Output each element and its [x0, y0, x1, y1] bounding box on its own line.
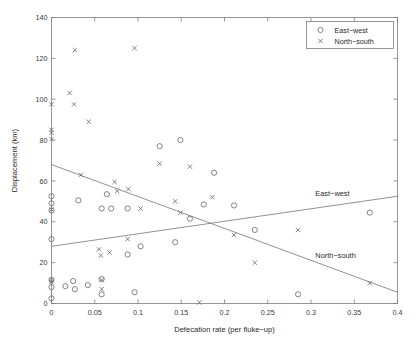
data-point-circle: [138, 244, 143, 249]
data-point-cross: [210, 195, 214, 199]
plot-frame: [52, 18, 398, 304]
data-point-circle: [173, 240, 178, 245]
fit-line-northsouth: [52, 165, 398, 293]
data-point-circle: [231, 203, 236, 208]
x-tick-label: 0.1: [133, 308, 143, 317]
data-point-circle: [99, 292, 104, 297]
x-tick-label: 0.35: [347, 308, 361, 317]
data-point-circle: [99, 206, 104, 211]
tick-labels-group: 00.050.10.150.20.250.30.350.402040608010…: [36, 13, 403, 316]
axis-titles-group: Defecation rate (per fluke−up)Displaceme…: [10, 128, 275, 333]
data-point-circle: [212, 170, 217, 175]
data-point-cross: [197, 300, 201, 304]
x-tick-label: 0.15: [174, 308, 188, 317]
y-axis-title: Displacement (km): [10, 128, 19, 192]
legend-label: North−south: [335, 37, 374, 46]
series-eastwest: [49, 137, 373, 301]
x-tick-label: 0.2: [220, 308, 230, 317]
data-point-circle: [125, 252, 130, 257]
data-point-cross: [99, 253, 103, 257]
data-point-cross: [86, 119, 90, 123]
series-northsouth: [49, 46, 372, 305]
y-tick-label: 100: [36, 95, 48, 104]
data-point-circle: [71, 278, 76, 283]
y-tick-label: 40: [40, 217, 48, 226]
y-tick-label: 60: [40, 177, 48, 186]
data-point-cross: [67, 91, 71, 95]
data-point-cross: [188, 164, 192, 168]
y-tick-label: 20: [40, 258, 48, 267]
x-axis-title: Defecation rate (per fluke−up): [174, 325, 275, 334]
y-tick-label: 0: [44, 299, 48, 308]
data-point-cross: [132, 46, 136, 50]
data-point-cross: [296, 228, 300, 232]
data-point-cross: [232, 233, 236, 237]
axes-group: [52, 18, 398, 304]
data-point-cross: [99, 287, 103, 291]
data-point-circle: [85, 283, 90, 288]
annotation-northsouth: North−south: [315, 251, 355, 260]
data-point-circle: [109, 206, 114, 211]
data-point-circle: [295, 292, 300, 297]
data-point-cross: [97, 247, 101, 251]
data-point-cross: [107, 250, 111, 254]
data-point-circle: [252, 227, 257, 232]
x-tick-label: 0.05: [88, 308, 102, 317]
data-point-circle: [367, 210, 372, 215]
y-tick-label: 80: [40, 136, 48, 145]
x-tick-label: 0.3: [306, 308, 316, 317]
data-point-cross: [368, 281, 372, 285]
data-point-cross: [173, 199, 177, 203]
chart-figure: 00.050.10.150.20.250.30.350.402040608010…: [0, 0, 416, 342]
legend-label: East−west: [335, 26, 368, 35]
fit-line-eastwest: [52, 196, 398, 246]
data-point-circle: [63, 284, 68, 289]
x-tick-label: 0.4: [393, 308, 403, 317]
data-point-circle: [201, 202, 206, 207]
annotation-eastwest: East−west: [315, 189, 349, 198]
scatter-plot: 00.050.10.150.20.250.30.350.402040608010…: [0, 0, 416, 342]
data-point-circle: [132, 290, 137, 295]
data-point-circle: [104, 192, 109, 197]
data-point-circle: [99, 276, 104, 281]
data-point-cross: [72, 102, 76, 106]
data-point-cross: [157, 161, 161, 165]
x-tick-label: 0: [50, 308, 54, 317]
data-point-cross: [125, 237, 129, 241]
legend-group: East−westNorth−south: [307, 22, 394, 49]
data-points-group: [49, 46, 373, 305]
data-point-cross: [73, 48, 77, 52]
y-tick-label: 120: [36, 54, 48, 63]
data-point-circle: [76, 198, 81, 203]
x-tick-label: 0.25: [261, 308, 275, 317]
fit-lines-group: [52, 165, 398, 293]
data-point-circle: [125, 206, 130, 211]
data-point-cross: [253, 260, 257, 264]
data-point-cross: [115, 189, 119, 193]
data-point-cross: [112, 180, 116, 184]
data-point-circle: [72, 287, 77, 292]
data-point-circle: [187, 216, 192, 221]
line-annotations-group: East−westNorth−south: [315, 189, 355, 259]
data-point-circle: [178, 137, 183, 142]
data-point-cross: [126, 187, 130, 191]
y-tick-label: 140: [36, 13, 48, 22]
data-point-cross: [138, 206, 142, 210]
data-point-circle: [157, 144, 162, 149]
